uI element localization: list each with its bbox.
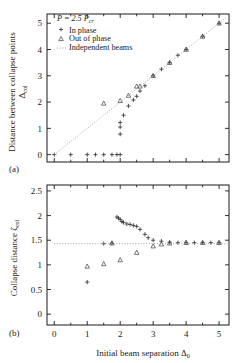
- figure-container: 012345 P = 2.5 Pcr In phase Out of phase: [0, 0, 245, 363]
- panel-b-label: (b): [9, 328, 20, 338]
- svg-text:Distance between collapse poin: Distance between collapse points: [7, 32, 17, 152]
- legend: P = 2.5 Pcr In phase Out of phase Indepe…: [56, 14, 132, 52]
- panel-b-data-layer: [54, 215, 227, 284]
- tick-label: 5: [217, 329, 222, 339]
- tick-label: 4: [184, 329, 189, 339]
- series-in-phase: [85, 215, 221, 284]
- tick-label: 1.5: [31, 235, 43, 245]
- tick-label: 0: [38, 309, 43, 319]
- tick-label: 3: [151, 329, 156, 339]
- series-out-of-phase: [102, 21, 222, 105]
- panel-a-y-title: Distance between collapse points: [7, 32, 17, 152]
- triangle-icon: [59, 37, 64, 41]
- panel-b-ticks: [47, 185, 229, 325]
- panel-b-y-title: Collapse distance ζcol: [9, 219, 20, 296]
- panel-b-y-tick-labels: 00.511.522.5: [31, 186, 43, 319]
- legend-label-independent-beams: Independent beams: [69, 43, 132, 52]
- svg-text:Δcol: Δcol: [17, 85, 28, 98]
- tick-label: 4: [38, 45, 43, 55]
- panel-b-x-tick-labels: 012345: [52, 329, 222, 339]
- svg-text:Collapse distance ζcol: Collapse distance ζcol: [9, 219, 20, 296]
- tick-label: 0.5: [31, 285, 43, 295]
- tick-label: 2: [118, 329, 123, 339]
- panel-a: 012345 P = 2.5 Pcr In phase Out of phase: [7, 14, 229, 174]
- tick-label: 0: [52, 329, 57, 339]
- plus-icon: [59, 28, 63, 32]
- legend-entry-independent-beams: Independent beams: [57, 43, 132, 52]
- tick-label: 2.5: [31, 186, 43, 196]
- tick-label: 2: [38, 97, 43, 107]
- series-out-of-phase: [85, 240, 221, 268]
- tick-label: 0: [38, 150, 43, 160]
- panel-a-y-title-symbol: Δcol: [17, 85, 28, 98]
- tick-label: 3: [38, 71, 43, 81]
- panel-b-frame: [47, 185, 229, 325]
- tick-label: 1: [85, 329, 90, 339]
- tick-label: 2: [38, 211, 43, 221]
- legend-condition: P = 2.5 Pcr: [56, 14, 94, 24]
- tick-label: 5: [38, 18, 43, 28]
- panel-a-y-tick-labels: 012345: [38, 18, 43, 159]
- tick-label: 1: [38, 260, 43, 270]
- collapse-points-figure: 012345 P = 2.5 Pcr In phase Out of phase: [0, 0, 245, 363]
- panel-a-label: (a): [9, 164, 19, 174]
- tick-label: 1: [38, 124, 43, 134]
- x-axis-title: Initial beam separation Δ0: [96, 348, 190, 359]
- panel-b: 00.511.522.5 012345 Collapse distance ζc…: [9, 185, 229, 359]
